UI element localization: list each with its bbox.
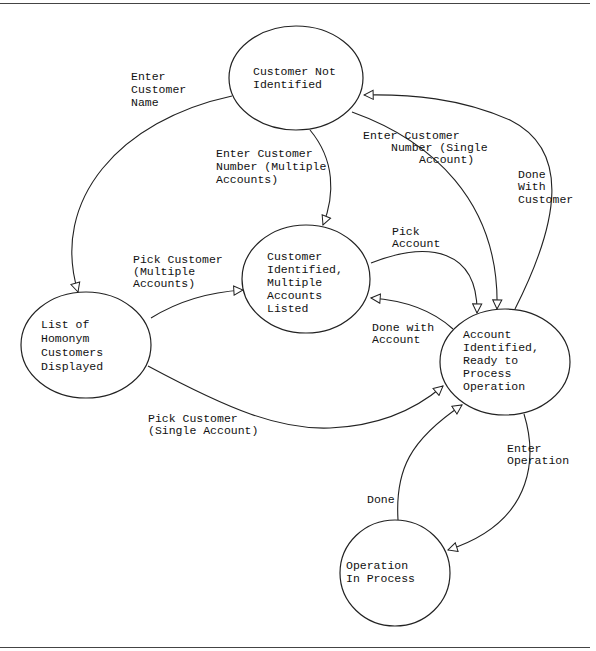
label-done-with-customer: Done With Customer <box>518 168 573 206</box>
label-pick-customer-single: Pick Customer (Single Account) <box>148 412 258 437</box>
state-diagram: Customer Not Identified List of Homonym … <box>0 0 596 651</box>
edge-pick-customer-multiple <box>151 290 243 318</box>
bottom-rule <box>0 647 590 648</box>
edge-enter-customer-number-multiple <box>310 130 331 225</box>
state-customer-not-identified: Customer Not Identified <box>229 26 363 130</box>
state-account-identified: Account Identified, Ready to Process Ope… <box>440 309 570 415</box>
label-pick-account: Pick Account <box>392 225 440 250</box>
state-label: Operation In Process <box>346 559 415 585</box>
edge-done <box>398 405 462 520</box>
label-enter-customer-number-multiple: Enter Customer Number (Multiple Accounts… <box>216 147 333 186</box>
label-done: Done <box>367 493 395 506</box>
label-enter-operation: Enter Operation <box>507 442 569 467</box>
label-enter-customer-number-single: Enter Customer Number (Single Account) <box>363 129 495 166</box>
label-enter-customer-name: Enter Customer Name <box>131 70 193 109</box>
edge-enter-operation <box>448 414 530 550</box>
edge-pick-account <box>371 252 477 313</box>
state-customer-identified-multiple-accounts: Customer Identified, Multiple Accounts L… <box>242 225 370 333</box>
state-list-homonym-customers: List of Homonym Customers Displayed <box>21 292 151 398</box>
label-pick-customer-multiple: Pick Customer (Multiple Accounts) <box>133 253 230 290</box>
label-done-with-account: Done with Account <box>372 321 441 346</box>
state-operation-in-process: Operation In Process <box>340 520 450 626</box>
